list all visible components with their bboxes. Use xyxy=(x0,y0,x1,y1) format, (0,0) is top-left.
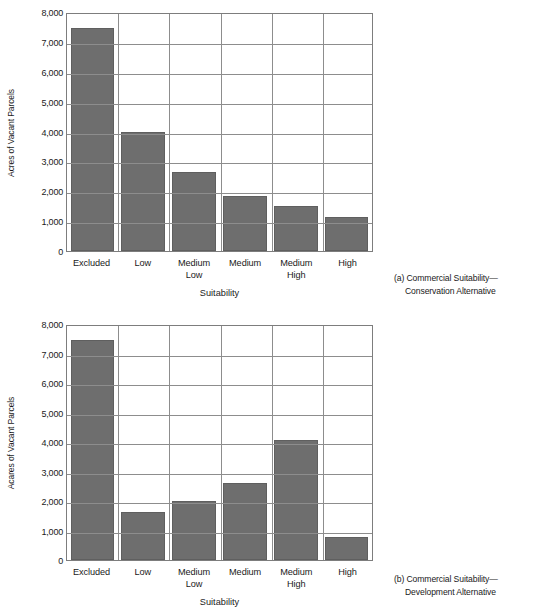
category-separator xyxy=(118,326,119,560)
bar-series-b xyxy=(67,326,372,560)
category-separator xyxy=(221,14,222,251)
y-axis-label-b-text: Acares of Vacant Parcels xyxy=(6,397,16,489)
x-axis-tick-labels-b: ExcludedLowMediumLowMediumMediumHighHigh xyxy=(66,567,373,590)
gridline xyxy=(67,444,372,445)
y-axis-tick-0: 0 xyxy=(23,247,63,257)
x-axis-tick-medium: Medium xyxy=(220,258,271,281)
y-axis-tick-1000: 1,000 xyxy=(23,217,63,227)
x-tick-line1: High xyxy=(338,258,357,268)
category-separator xyxy=(221,326,222,560)
figure-panel-a: Acres of Vacant Parcels 01,0002,0003,000… xyxy=(0,0,534,308)
y-axis-tick-2000: 2,000 xyxy=(23,187,63,197)
x-axis-tick-medium-low: MediumLow xyxy=(168,567,219,590)
category-separator xyxy=(169,14,170,251)
y-axis-tick-6000: 6,000 xyxy=(23,379,63,389)
category-separator xyxy=(169,326,170,560)
y-axis-tick-labels-b: 01,0002,0003,0004,0005,0006,0007,0008,00… xyxy=(23,325,63,561)
bar-medium-high xyxy=(274,440,318,560)
caption-a: (a) Commercial Suitability— Conservation… xyxy=(394,272,534,297)
caption-a-line2: Conservation Alternative xyxy=(394,285,534,298)
bar-excluded xyxy=(71,28,115,251)
y-axis-tick-4000: 4,000 xyxy=(23,128,63,138)
bar-slot xyxy=(270,326,321,560)
x-tick-line1: Low xyxy=(134,258,151,268)
category-separator xyxy=(323,14,324,251)
x-axis-tick-labels-a: ExcludedLowMediumLowMediumMediumHighHigh xyxy=(66,258,373,281)
category-separator xyxy=(323,326,324,560)
gridline xyxy=(67,104,372,105)
caption-a-line1: (a) Commercial Suitability— xyxy=(394,273,498,283)
category-separator xyxy=(118,14,119,251)
x-tick-line1: Medium xyxy=(178,258,210,268)
x-tick-line1: Medium xyxy=(229,258,261,268)
plot-area-a xyxy=(66,13,373,252)
bar-low xyxy=(121,132,165,252)
x-axis-label-a: Suitability xyxy=(66,288,373,298)
gridline xyxy=(67,163,372,164)
bar-slot xyxy=(219,326,270,560)
x-tick-line1: High xyxy=(338,567,357,577)
y-axis-tick-7000: 7,000 xyxy=(23,38,63,48)
y-axis-tick-6000: 6,000 xyxy=(23,68,63,78)
x-axis-tick-high: High xyxy=(322,567,373,590)
x-tick-line1: Medium xyxy=(280,567,312,577)
gridline xyxy=(67,193,372,194)
gridline xyxy=(67,533,372,534)
x-axis-tick-medium-low: MediumLow xyxy=(168,258,219,281)
bar-high xyxy=(325,537,369,560)
gridline xyxy=(67,134,372,135)
x-tick-line1: Medium xyxy=(178,567,210,577)
y-axis-tick-1000: 1,000 xyxy=(23,527,63,537)
y-axis-label-a-text: Acres of Vacant Parcels xyxy=(6,89,16,177)
bar-slot xyxy=(219,14,270,251)
x-tick-line1: Medium xyxy=(229,567,261,577)
x-axis-tick-medium-high: MediumHigh xyxy=(271,258,322,281)
y-axis-tick-0: 0 xyxy=(23,556,63,566)
y-axis-tick-7000: 7,000 xyxy=(23,350,63,360)
x-axis-tick-excluded: Excluded xyxy=(66,567,117,590)
x-tick-line1: Excluded xyxy=(73,567,110,577)
x-tick-line2: High xyxy=(271,270,322,282)
bar-slot xyxy=(67,14,118,251)
bar-slot xyxy=(321,326,372,560)
x-axis-tick-medium: Medium xyxy=(220,567,271,590)
x-tick-line1: Low xyxy=(134,567,151,577)
category-separator xyxy=(272,14,273,251)
gridline xyxy=(67,385,372,386)
x-axis-label-b: Suitability xyxy=(66,597,373,607)
gridline xyxy=(67,503,372,504)
figure-panel-b: Acares of Vacant Parcels 01,0002,0003,00… xyxy=(0,308,534,612)
x-tick-line1: Medium xyxy=(280,258,312,268)
bar-slot xyxy=(270,14,321,251)
x-tick-line2: Low xyxy=(168,270,219,282)
gridline xyxy=(67,474,372,475)
bar-medium-low xyxy=(172,501,216,560)
x-axis-tick-medium-high: MediumHigh xyxy=(271,567,322,590)
caption-b: (b) Commercial Suitability— Development … xyxy=(394,573,534,598)
bar-chart-conservation: Acres of Vacant Parcels 01,0002,0003,000… xyxy=(0,0,380,308)
y-axis-tick-8000: 8,000 xyxy=(23,320,63,330)
bar-medium-low xyxy=(172,172,216,251)
y-axis-tick-5000: 5,000 xyxy=(23,409,63,419)
bar-medium-high xyxy=(274,206,318,251)
bar-slot xyxy=(118,14,169,251)
y-axis-tick-8000: 8,000 xyxy=(23,8,63,18)
category-separator xyxy=(272,326,273,560)
gridline xyxy=(67,44,372,45)
y-axis-label-a: Acres of Vacant Parcels xyxy=(2,13,20,252)
gridline xyxy=(67,74,372,75)
bar-medium xyxy=(223,483,267,560)
gridline xyxy=(67,415,372,416)
x-axis-tick-excluded: Excluded xyxy=(66,258,117,281)
x-tick-line2: Low xyxy=(168,579,219,591)
x-axis-tick-low: Low xyxy=(117,258,168,281)
bar-slot xyxy=(169,14,220,251)
x-tick-line1: Excluded xyxy=(73,258,110,268)
caption-b-line2: Development Alternative xyxy=(394,586,534,599)
caption-b-line1: (b) Commercial Suitability— xyxy=(394,574,498,584)
bar-chart-development: Acares of Vacant Parcels 01,0002,0003,00… xyxy=(0,308,380,612)
bar-slot xyxy=(169,326,220,560)
bar-excluded xyxy=(71,340,115,560)
bar-low xyxy=(121,512,165,560)
bar-slot xyxy=(118,326,169,560)
